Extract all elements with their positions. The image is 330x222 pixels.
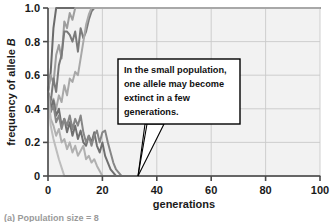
callout-line-4: generations. [124,107,179,117]
figure-caption: (a) Population size = 8 [4,213,99,222]
callout-line-3: extinct in a few [124,93,191,103]
x-tick-label: 100 [311,184,329,196]
y-tick-label: 0.8 [25,36,40,48]
y-tick-label: 0.6 [25,69,40,81]
x-tick-label: 20 [96,184,108,196]
x-tick-label: 40 [151,184,163,196]
x-tick-label: 80 [259,184,271,196]
genetic-drift-figure: 00.20.40.60.81.0020406080100 frequency o… [0,0,330,222]
x-tick-label: 60 [205,184,217,196]
y-tick-label: 0.4 [25,103,41,115]
y-tick-label: 0.2 [25,136,40,148]
x-tick-label: 0 [45,184,51,196]
y-tick-label: 0 [34,170,40,182]
drift-line-chart: 00.20.40.60.81.0020406080100 frequency o… [0,0,330,222]
y-tick-label: 1.0 [25,2,40,14]
x-axis-title: generations [153,198,215,210]
callout-line-2: one allele may become [124,79,224,89]
y-axis-title: frequency of alleleB [5,38,17,146]
callout-line-1: In the small population, [124,65,227,75]
